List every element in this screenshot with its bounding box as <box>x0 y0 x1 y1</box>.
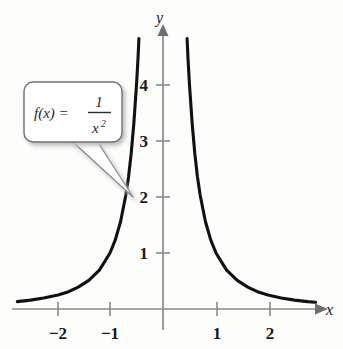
x-tick-label--1: −1 <box>101 324 119 343</box>
y-tick-label-2: 2 <box>140 188 149 207</box>
formula-numerator: 1 <box>95 94 103 110</box>
x-axis-label: x <box>325 301 333 318</box>
y-tick-label-1: 1 <box>140 244 149 263</box>
formula-denominator-base: x <box>91 120 99 136</box>
x-tick-label--2: −2 <box>49 324 67 343</box>
formula-lhs: f(x) = <box>34 105 69 122</box>
formula-denominator-exponent: 2 <box>101 119 106 129</box>
y-axis-label: y <box>154 9 164 27</box>
x-tick-label-2: 2 <box>266 324 275 343</box>
y-tick-label-3: 3 <box>140 132 149 151</box>
function-graph-figure: x y −2 −1 1 2 4 3 2 1 f(x) = 1 x 2 <box>0 0 343 349</box>
x-tick-label-1: 1 <box>213 324 222 343</box>
y-tick-label-4: 4 <box>140 76 149 95</box>
figure-container: x y −2 −1 1 2 4 3 2 1 f(x) = 1 x 2 <box>0 0 343 349</box>
